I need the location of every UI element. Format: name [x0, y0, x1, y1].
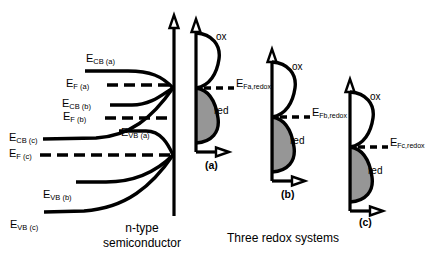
label-ef-a: EF (a) [66, 78, 89, 89]
label-evb-b: EVB (b) [43, 189, 72, 200]
semiconductor-caption-line1: n-type [88, 222, 196, 234]
figure-canvas: ECB (a) EF (a) ECB (b) EF (b) ECB (c) EF… [0, 0, 442, 263]
label-ef-b: EF (b) [63, 111, 86, 122]
redox-c-fermi-label: EFc,redox [390, 137, 425, 148]
redox-b-fermi-label: EFb,redox [312, 107, 347, 118]
semiconductor-region [40, 15, 179, 216]
panel-tag-c: (c) [359, 217, 372, 228]
redox-a-fermi-label: EFa,redox [236, 78, 271, 89]
redox-a-red-label: red [214, 106, 228, 116]
redox-c-red-label: red [368, 166, 382, 176]
semiconductor-caption: n-type semiconductor [88, 222, 196, 249]
redox-caption: Three redox systems [208, 232, 358, 244]
semiconductor-interface-axis [170, 15, 179, 216]
panel-tag-b: (b) [281, 189, 294, 200]
redox-a-ox-label: ox [216, 32, 227, 42]
label-ecb-a: ECB (a) [86, 53, 115, 64]
redox-b-ox-label: ox [292, 62, 303, 72]
label-ecb-c: ECB (c) [9, 132, 38, 143]
label-ef-c: EF (c) [9, 148, 32, 159]
label-evb-c: EVB (c) [10, 219, 38, 230]
redox-b-red-label: red [290, 136, 304, 146]
redox-c-ox-label: ox [370, 92, 381, 102]
panel-tag-a: (a) [205, 160, 218, 171]
label-ecb-b: ECB (b) [62, 98, 91, 109]
semiconductor-caption-line2: semiconductor [88, 237, 196, 249]
label-evb-a: EVB (a) [121, 127, 150, 138]
band-curve-vb-b [76, 155, 173, 182]
